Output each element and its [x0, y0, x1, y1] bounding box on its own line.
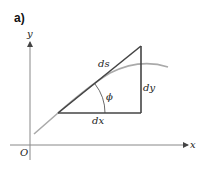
dy-label: dy: [143, 82, 155, 93]
angle-arc: [95, 84, 105, 113]
panel-label: a): [14, 11, 25, 25]
y-axis-label: y: [26, 28, 33, 39]
dx-label: dx: [92, 115, 104, 126]
origin-label: O: [20, 147, 28, 158]
hypotenuse-ds: [58, 46, 141, 113]
x-axis-label: x: [190, 139, 196, 150]
phi-label: ϕ: [106, 91, 113, 102]
arc-length-diagram: a) y x O ds dy dx ϕ: [0, 0, 203, 171]
ds-label: ds: [98, 58, 110, 69]
